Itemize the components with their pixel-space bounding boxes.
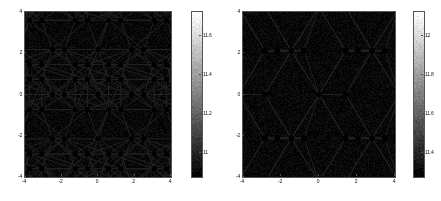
lattice-vertex <box>141 92 146 97</box>
lattice-bond <box>345 50 372 94</box>
lattice-bond <box>98 20 109 49</box>
colorbar-tick-label: 11 <box>201 149 208 155</box>
lattice-vertex <box>62 47 67 52</box>
lattice-vertex <box>73 77 78 82</box>
lattice-bond <box>98 110 109 139</box>
lattice-vertex <box>141 136 146 141</box>
y-tick-mark <box>242 176 244 177</box>
y-tick-label: -2 <box>8 132 24 138</box>
lattice-bond <box>121 12 154 20</box>
lattice-bond <box>265 138 292 177</box>
y-tick-mark <box>242 52 244 53</box>
plot-area-right[interactable]: -4-2024 -4-2024 <box>242 11 394 176</box>
lattice-bond <box>87 154 108 177</box>
density-plot-right <box>242 11 396 178</box>
lattice-vertex <box>73 166 78 171</box>
lattice-bond <box>385 12 395 51</box>
lattice-bond <box>265 95 292 138</box>
lattice-vertex <box>164 62 169 67</box>
lattice-bond <box>131 110 166 139</box>
lattice-bond <box>243 51 265 94</box>
lattice-vertex <box>106 77 111 82</box>
lattice-bond <box>345 138 372 177</box>
lattice-vertex <box>343 48 348 53</box>
lattice-bond <box>304 138 319 177</box>
colorbar-tick-label: 11.4 <box>201 71 212 77</box>
lattice-vertex <box>95 136 100 141</box>
lattice-bond <box>52 110 87 139</box>
lattice-vertex <box>73 107 78 112</box>
lattice-bond <box>25 154 42 169</box>
lattice-bond <box>52 20 87 49</box>
lattice-bond <box>166 110 171 139</box>
lattice-bond <box>385 138 395 177</box>
lattice-vertex <box>62 92 67 97</box>
lattice-vertex <box>50 136 55 141</box>
lattice-vertex <box>39 77 44 82</box>
lattice-vertex <box>343 135 348 140</box>
lattice-bond <box>25 65 42 80</box>
lattice-vertex <box>39 62 44 67</box>
lattice-vertex <box>27 151 32 156</box>
lattice-bond <box>345 12 372 51</box>
lattice-vertex <box>369 135 374 140</box>
lattice-vertex <box>50 92 55 97</box>
lattice-vertex <box>85 77 90 82</box>
panel-right: -4-2024 -4-2024 11.411.611.812 <box>221 0 441 201</box>
colorbar-tick-label: 11.2 <box>201 110 212 116</box>
lattice-vertex <box>301 135 306 140</box>
lattice-vertex <box>152 166 157 171</box>
y-tick-label: -2 <box>226 132 242 138</box>
lattice-bond <box>304 12 319 51</box>
lattice-vertex <box>85 62 90 67</box>
lattice-vertex <box>355 48 360 53</box>
colorbar-tick-label: 11.6 <box>201 32 212 38</box>
y-tick-label: -4 <box>8 173 24 179</box>
lattice-vertex <box>355 135 360 140</box>
lattice-vertex <box>382 135 387 140</box>
plot-area-left[interactable]: -4-2024 -4-2024 <box>24 11 170 176</box>
lattice-bond <box>319 50 345 94</box>
lattice-vertex <box>85 151 90 156</box>
lattice-vertex <box>129 92 134 97</box>
lattice-vertex <box>39 151 44 156</box>
panel-left: -4-2024 -4-2024 1111.211.411.6 <box>0 0 220 201</box>
lattice-bond <box>121 20 132 49</box>
y-tick-label: 4 <box>8 8 24 14</box>
lattice-vertex <box>164 18 169 23</box>
y-tick-mark <box>24 52 26 53</box>
lattice-vertex <box>316 92 321 97</box>
lattice-vertex <box>152 151 157 156</box>
lattice-bond <box>304 50 319 94</box>
lattice-bond <box>319 12 345 51</box>
lattice-vertex <box>164 166 169 171</box>
lattice-vertex <box>289 135 294 140</box>
lattice-vertex <box>118 166 123 171</box>
lattice-overlay-right <box>243 12 395 177</box>
lattice-vertex <box>39 107 44 112</box>
lattice-vertex <box>118 151 123 156</box>
colorbar-right[interactable]: 11.411.611.812 <box>413 11 423 176</box>
lattice-vertex <box>382 48 387 53</box>
colorbar-left[interactable]: 1111.211.411.6 <box>191 11 201 176</box>
lattice-bond <box>345 12 372 50</box>
lattice-bond <box>291 50 319 94</box>
y-tick-label: 2 <box>8 49 24 55</box>
lattice-bond <box>243 139 265 177</box>
y-tick-label: -4 <box>226 173 242 179</box>
lattice-vertex <box>164 107 169 112</box>
lattice-bond <box>166 20 171 49</box>
lattice-bond <box>265 12 292 51</box>
lattice-overlay-left <box>25 12 171 177</box>
x-tick-label: 0 <box>308 176 328 184</box>
y-tick-label: 0 <box>8 91 24 97</box>
lattice-bond <box>87 20 98 49</box>
lattice-vertex <box>164 151 169 156</box>
lattice-vertex <box>118 62 123 67</box>
lattice-vertex <box>27 18 32 23</box>
lattice-vertex <box>152 62 157 67</box>
lattice-bond <box>319 138 345 177</box>
lattice-vertex <box>73 62 78 67</box>
lattice-vertex <box>118 18 123 23</box>
lattice-bond <box>372 95 395 138</box>
